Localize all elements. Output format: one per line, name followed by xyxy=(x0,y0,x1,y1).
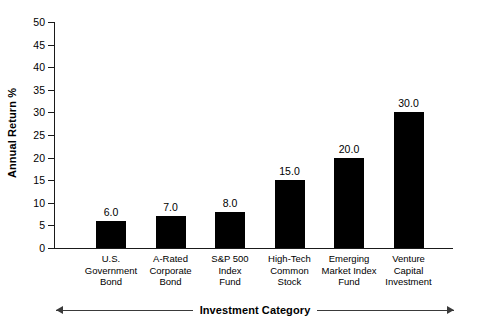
y-tick-label: 30 xyxy=(5,107,45,117)
x-axis-title-row: Investment Category xyxy=(56,302,454,318)
y-tick-mark xyxy=(48,135,54,136)
y-tick-label: 10 xyxy=(5,198,45,208)
category-label: U.S. Government Bond xyxy=(79,253,143,288)
category-label: A-Rated Corporate Bond xyxy=(139,253,203,288)
y-tick-label: 25 xyxy=(5,130,45,140)
bar-value-label: 7.0 xyxy=(146,202,196,213)
category-label: Emerging Market Index Fund xyxy=(317,253,381,288)
bar-value-label: 20.0 xyxy=(324,144,374,155)
bar xyxy=(275,180,305,248)
bar xyxy=(334,158,364,248)
y-tick-mark xyxy=(48,45,54,46)
y-tick-mark xyxy=(48,67,54,68)
x-axis-title: Investment Category xyxy=(193,304,318,316)
y-tick-mark xyxy=(48,225,54,226)
y-tick-label: 50 xyxy=(5,17,45,27)
y-tick-mark xyxy=(48,90,54,91)
bar xyxy=(156,216,186,248)
y-tick-label: 0 xyxy=(5,243,45,253)
bar-chart: Annual Return % 05101520253035404550 6.0… xyxy=(0,0,477,327)
y-tick-mark xyxy=(48,180,54,181)
category-label: High-Tech Common Stock xyxy=(258,253,322,288)
y-tick-mark xyxy=(48,112,54,113)
y-tick-label: 35 xyxy=(5,85,45,95)
y-tick-label: 20 xyxy=(5,153,45,163)
arrow-left-icon xyxy=(56,305,193,316)
bar xyxy=(96,221,126,248)
y-tick-label: 40 xyxy=(5,62,45,72)
y-tick-label: 45 xyxy=(5,40,45,50)
y-tick-mark xyxy=(48,158,54,159)
category-label: Venture Capital Investment xyxy=(377,253,441,288)
bar xyxy=(394,112,424,248)
arrow-right-icon xyxy=(317,305,454,316)
y-tick-label: 15 xyxy=(5,175,45,185)
y-tick-mark xyxy=(48,203,54,204)
y-tick-label: 5 xyxy=(5,220,45,230)
bar xyxy=(215,212,245,248)
bar-value-label: 8.0 xyxy=(205,198,255,209)
bar-value-label: 6.0 xyxy=(86,207,136,218)
bar-value-label: 15.0 xyxy=(265,166,315,177)
y-tick-mark xyxy=(48,248,54,249)
category-label: S&P 500 Index Fund xyxy=(198,253,262,288)
x-axis-line xyxy=(54,248,453,249)
y-tick-mark xyxy=(48,22,54,23)
bar-value-label: 30.0 xyxy=(384,98,434,109)
